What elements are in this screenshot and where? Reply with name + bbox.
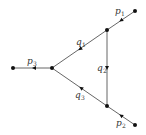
svg-text:1: 1 [82, 41, 86, 48]
node-ext-left [11, 66, 15, 70]
label-q2: q 2 [97, 63, 107, 74]
label-p2: p 2 [116, 118, 126, 129]
label-p3: p 3 [27, 56, 37, 67]
node-ext-top [133, 9, 137, 13]
svg-text:3: 3 [33, 60, 37, 67]
label-p1: p 1 [115, 6, 125, 17]
svg-text:1: 1 [121, 10, 125, 17]
label-q3: q 3 [75, 90, 85, 101]
node-vertex-top [105, 28, 109, 32]
svg-text:2: 2 [122, 122, 126, 129]
node-ext-bottom [133, 123, 137, 127]
label-q1: q 1 [76, 37, 86, 48]
node-vertex-bottom [105, 104, 109, 108]
svg-text:2: 2 [103, 67, 107, 74]
arrow-p1-icon [118, 18, 124, 24]
node-vertex-left [50, 66, 54, 70]
svg-text:3: 3 [81, 94, 85, 101]
triangle-diagram: p 1 p 3 q 1 q 2 q 3 p 2 [0, 0, 146, 135]
